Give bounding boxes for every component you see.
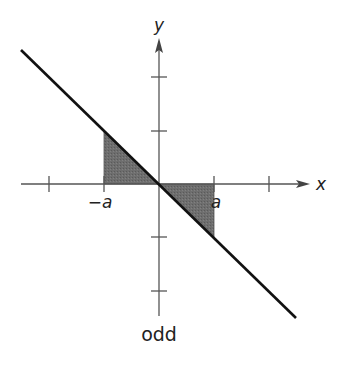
tick-label-pos-a: a — [211, 192, 221, 212]
diagram-caption: odd — [141, 323, 177, 345]
graph-canvas: y x −a a odd — [0, 0, 340, 367]
odd-function-diagram: y x −a a odd — [0, 0, 340, 367]
x-axis-label: x — [315, 174, 327, 194]
tick-label-neg-a: −a — [88, 192, 113, 212]
y-axis-label: y — [153, 15, 165, 35]
y-axis — [151, 38, 167, 316]
